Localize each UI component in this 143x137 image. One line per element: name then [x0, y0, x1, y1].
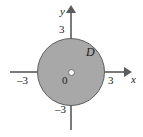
- origin-point-marker: [68, 69, 75, 76]
- x-axis-label: x: [131, 74, 136, 85]
- y-axis-arrowhead-icon: [66, 5, 76, 13]
- y-axis-tick-label-negative: –3: [55, 104, 66, 115]
- x-axis-tick-label-positive: 3: [108, 75, 114, 86]
- y-axis-label: y: [60, 6, 65, 17]
- x-axis-tick-label-negative: –3: [17, 75, 28, 86]
- region-label-d: D: [86, 47, 95, 58]
- y-axis-tick-label-positive: 3: [59, 24, 65, 35]
- disk-region-figure: y x 3 –3 –3 3 0 D: [0, 0, 143, 137]
- origin-label: 0: [62, 75, 68, 86]
